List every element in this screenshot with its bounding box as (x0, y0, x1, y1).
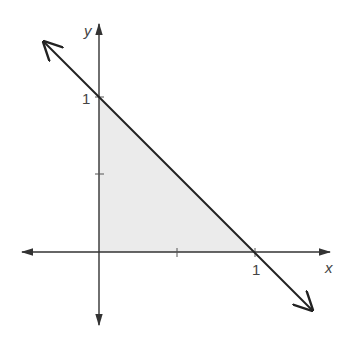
x-tick-label: 1 (252, 262, 260, 277)
x-axis-label: x (325, 260, 333, 275)
coordinate-plane (0, 0, 357, 355)
y-axis-label: y (84, 23, 92, 38)
y-tick-label: 1 (82, 91, 90, 106)
boundary-line (44, 42, 312, 310)
